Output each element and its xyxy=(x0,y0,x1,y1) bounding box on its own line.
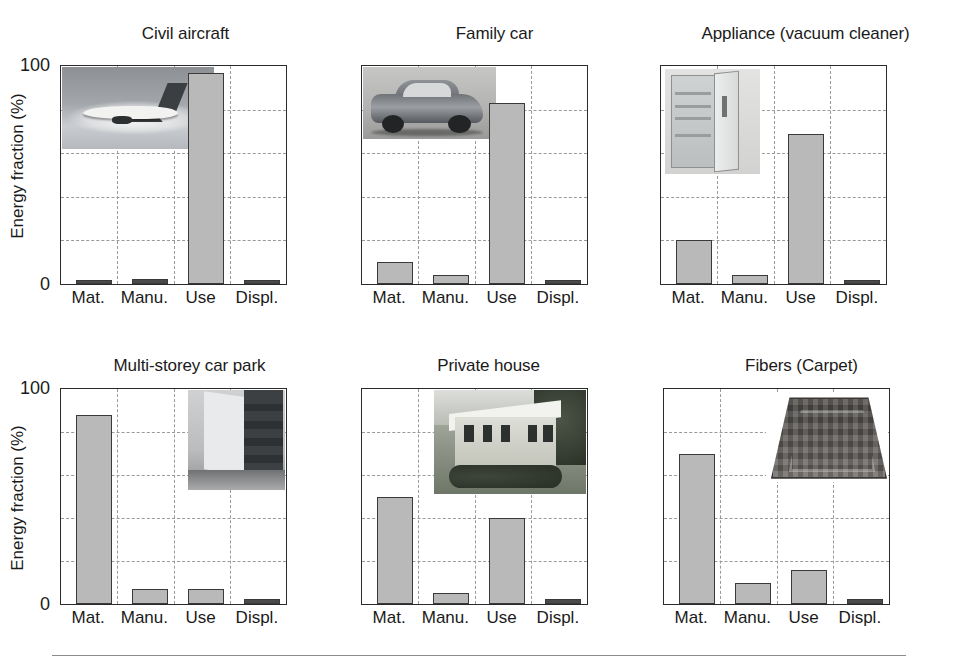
bar-displ xyxy=(844,280,880,284)
bar-group xyxy=(362,66,587,284)
x-label-use: Use xyxy=(773,288,829,308)
bar-mat xyxy=(377,262,413,284)
bar-group xyxy=(664,389,889,604)
bar-manu xyxy=(732,275,768,284)
x-label-manu: Manu. xyxy=(716,288,772,308)
panel-family-car: Family car xyxy=(319,8,638,308)
x-label-manu: Manu. xyxy=(417,288,473,308)
panel-private-house: Private house xyxy=(319,340,638,640)
bar-mat xyxy=(76,280,112,284)
x-label-mat: Mat. xyxy=(60,608,116,628)
x-label-manu: Manu. xyxy=(417,608,473,628)
plot-area xyxy=(361,388,588,605)
y-tick-group: 100 0 xyxy=(10,388,54,603)
x-label-mat: Mat. xyxy=(660,288,716,308)
x-label-manu: Manu. xyxy=(116,288,172,308)
panel-appliance-vacuum-cleaner: Appliance (vacuum cleaner) xyxy=(638,8,957,308)
x-label-mat: Mat. xyxy=(60,288,116,308)
bar-use xyxy=(788,134,824,284)
x-label-use: Use xyxy=(776,608,832,628)
bar-mat xyxy=(76,415,112,604)
x-label-displ: Displ. xyxy=(530,288,586,308)
y-tick-100: 100 xyxy=(20,379,50,397)
panel-title: Private house xyxy=(319,356,648,376)
panel-fibers-carpet: Fibers (Carpet) M xyxy=(638,340,957,640)
bar-use xyxy=(489,518,525,604)
bar-mat xyxy=(676,240,712,284)
bar-mat xyxy=(679,454,715,605)
x-tick-labels: Mat. Manu. Use Displ. xyxy=(663,608,888,628)
panel-title: Multi-storey car park xyxy=(0,356,349,376)
y-tick-0: 0 xyxy=(40,275,50,293)
x-label-displ: Displ. xyxy=(229,608,285,628)
panel-title: Fibers (Carpet) xyxy=(638,356,958,376)
plot-area xyxy=(60,388,287,605)
x-tick-labels: Mat. Manu. Use Displ. xyxy=(361,608,586,628)
bar-manu xyxy=(735,583,771,605)
x-tick-labels: Mat. Manu. Use Displ. xyxy=(60,288,285,308)
bar-use xyxy=(188,589,224,604)
panel-civil-aircraft: Civil aircraft Energy fraction (%) 100 0 xyxy=(0,8,319,308)
plot-area xyxy=(663,388,890,605)
footer-divider xyxy=(52,655,906,656)
bar-mat xyxy=(377,497,413,605)
x-label-use: Use xyxy=(173,608,229,628)
bar-displ xyxy=(545,280,581,284)
bar-manu xyxy=(433,593,469,604)
x-label-use: Use xyxy=(474,288,530,308)
panel-title: Family car xyxy=(319,24,654,44)
panel-multi-storey-car-park: Multi-storey car park Energy fraction (%… xyxy=(0,340,319,640)
x-label-mat: Mat. xyxy=(663,608,719,628)
panel-title: Appliance (vacuum cleaner) xyxy=(638,24,958,44)
bar-manu xyxy=(132,279,168,284)
x-label-mat: Mat. xyxy=(361,608,417,628)
y-tick-100: 100 xyxy=(20,56,50,74)
bar-displ xyxy=(244,599,280,604)
x-label-use: Use xyxy=(173,288,229,308)
x-label-displ: Displ. xyxy=(229,288,285,308)
x-label-use: Use xyxy=(474,608,530,628)
x-label-manu: Manu. xyxy=(719,608,775,628)
bar-displ xyxy=(545,599,581,604)
bar-use xyxy=(791,570,827,604)
bar-use xyxy=(188,73,224,284)
x-label-mat: Mat. xyxy=(361,288,417,308)
x-tick-labels: Mat. Manu. Use Displ. xyxy=(361,288,586,308)
plot-area xyxy=(660,65,887,285)
bar-group xyxy=(61,66,286,284)
bar-group xyxy=(61,389,286,604)
bar-displ xyxy=(847,599,883,604)
y-tick-group: 100 0 xyxy=(10,65,54,283)
panel-row-top: Civil aircraft Energy fraction (%) 100 0 xyxy=(0,8,958,308)
bar-manu xyxy=(433,275,469,284)
plot-area xyxy=(361,65,588,285)
bar-displ xyxy=(244,280,280,284)
bar-group xyxy=(661,66,886,284)
x-label-displ: Displ. xyxy=(832,608,888,628)
x-tick-labels: Mat. Manu. Use Displ. xyxy=(660,288,885,308)
bar-group xyxy=(362,389,587,604)
figure-panel-grid: Civil aircraft Energy fraction (%) 100 0 xyxy=(0,0,958,670)
x-label-displ: Displ. xyxy=(829,288,885,308)
x-tick-labels: Mat. Manu. Use Displ. xyxy=(60,608,285,628)
x-label-manu: Manu. xyxy=(116,608,172,628)
panel-title: Civil aircraft xyxy=(0,24,345,44)
plot-area xyxy=(60,65,287,285)
panel-row-bottom: Multi-storey car park Energy fraction (%… xyxy=(0,340,958,640)
bar-use xyxy=(489,103,525,284)
y-tick-0: 0 xyxy=(40,595,50,613)
x-label-displ: Displ. xyxy=(530,608,586,628)
bar-manu xyxy=(132,589,168,604)
